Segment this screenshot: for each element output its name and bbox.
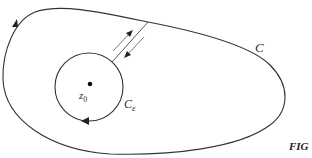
contour-diagram bbox=[0, 0, 312, 158]
figure-caption: FIG bbox=[289, 140, 309, 152]
inner-contour-c-epsilon bbox=[55, 53, 123, 121]
inner-direction-arrow-icon bbox=[81, 117, 89, 125]
outer-contour-label: C bbox=[255, 40, 264, 56]
inner-contour-label-main: C bbox=[124, 97, 132, 111]
cut-arrow-in-shaft bbox=[127, 37, 144, 55]
center-point-label: z0 bbox=[79, 89, 87, 104]
center-point-dot bbox=[88, 82, 93, 87]
inner-contour-label-sub: ε bbox=[132, 103, 136, 113]
outer-direction-arrow-icon bbox=[12, 19, 18, 27]
outer-contour-c bbox=[3, 8, 285, 154]
cut-line bbox=[112, 22, 148, 62]
cut-arrow-out-shaft bbox=[113, 33, 130, 51]
inner-contour-label: Cε bbox=[124, 97, 136, 113]
center-point-label-sub: 0 bbox=[83, 95, 87, 104]
